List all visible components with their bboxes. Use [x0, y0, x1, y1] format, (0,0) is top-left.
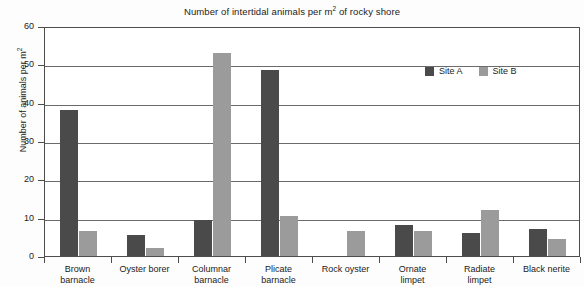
x-axis-label: Oyster borer: [111, 264, 178, 275]
chart-legend: Site A Site B: [425, 66, 517, 76]
y-axis-tick: [38, 65, 44, 66]
legend-label-site-a: Site A: [439, 66, 463, 76]
x-axis-label: Radiatelimpet: [446, 264, 513, 286]
gridline: [45, 143, 579, 144]
x-axis-label-line: Columnar: [192, 264, 231, 274]
y-axis-label: 40: [0, 98, 34, 108]
bar-site-a: [194, 220, 212, 256]
x-axis-label: Plicatebarnacle: [245, 264, 312, 286]
bar-site-a: [395, 225, 413, 256]
x-axis-label: Brownbarnacle: [44, 264, 111, 286]
x-axis-label: Columnarbarnacle: [178, 264, 245, 286]
y-axis-tick: [38, 142, 44, 143]
y-axis-label: 0: [0, 251, 34, 261]
x-axis-tick: [44, 257, 45, 263]
legend-item-site-b: Site B: [479, 66, 517, 76]
x-axis-tick: [513, 257, 514, 263]
gridline: [45, 181, 579, 182]
bar-site-a: [127, 235, 145, 256]
x-axis-label-line: Oyster borer: [119, 264, 169, 274]
x-axis-label-line: Brown: [65, 264, 91, 274]
y-axis-label: 20: [0, 174, 34, 184]
gridline: [45, 105, 579, 106]
y-axis-tick: [38, 180, 44, 181]
x-axis-label: Black nerite: [513, 264, 580, 275]
x-axis-label-line: Black nerite: [523, 264, 570, 274]
y-axis-title-superscript: 2: [16, 48, 23, 52]
chart-title: Number of intertidal animals per m2 of r…: [0, 6, 584, 17]
x-axis-label-line: limpet: [467, 275, 491, 285]
x-axis-label-line: barnacle: [60, 275, 95, 285]
x-axis-label: Rock oyster: [312, 264, 379, 275]
bar-site-a: [60, 110, 78, 256]
x-axis-tick: [379, 257, 380, 263]
x-axis-label: Ornatelimpet: [379, 264, 446, 286]
x-axis-label-line: Rock oyster: [322, 264, 370, 274]
bar-site-b: [79, 231, 97, 256]
x-axis-tick: [580, 257, 581, 263]
bar-site-b: [414, 231, 432, 256]
y-axis-label: 50: [0, 59, 34, 69]
x-axis-label-line: barnacle: [194, 275, 229, 285]
y-axis-tick: [38, 104, 44, 105]
bar-site-b: [481, 210, 499, 256]
bar-chart: Number of intertidal animals per m2 of r…: [0, 0, 584, 287]
y-axis-label: 60: [0, 21, 34, 31]
x-axis-label-line: Radiate: [464, 264, 495, 274]
bar-site-a: [462, 233, 480, 256]
y-axis-tick: [38, 219, 44, 220]
legend-swatch-icon-site-b: [479, 67, 488, 76]
plot-area: [44, 27, 580, 257]
x-axis-tick: [446, 257, 447, 263]
x-axis-tick: [111, 257, 112, 263]
x-axis-label-line: barnacle: [261, 275, 296, 285]
bar-site-b: [347, 231, 365, 256]
x-axis-label-line: Ornate: [399, 264, 427, 274]
bar-site-b: [280, 216, 298, 256]
chart-title-text: Number of intertidal animals per m: [184, 6, 333, 17]
x-axis-tick: [312, 257, 313, 263]
bar-site-a: [529, 229, 547, 256]
y-axis-tick: [38, 27, 44, 28]
bar-site-b: [548, 239, 566, 256]
legend-swatch-icon-site-a: [425, 67, 434, 76]
legend-item-site-a: Site A: [425, 66, 463, 76]
y-axis-label: 30: [0, 136, 34, 146]
bar-site-a: [261, 70, 279, 256]
chart-title-tail: of rocky shore: [336, 6, 400, 17]
bar-site-b: [146, 248, 164, 256]
x-axis-tick: [245, 257, 246, 263]
x-axis-tick: [178, 257, 179, 263]
bar-site-b: [213, 53, 231, 256]
legend-label-site-b: Site B: [493, 66, 517, 76]
y-axis-label: 10: [0, 213, 34, 223]
x-axis-label-line: limpet: [400, 275, 424, 285]
x-axis-label-line: Plicate: [265, 264, 292, 274]
